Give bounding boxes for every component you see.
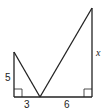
left-base-label: 3 xyxy=(24,99,30,109)
right-base-label: 6 xyxy=(64,99,70,109)
right-triangle-hypotenuse xyxy=(40,8,92,97)
right-height-label: x xyxy=(95,47,101,58)
similar-triangles-diagram: 5 3 6 x xyxy=(0,0,106,109)
left-height-label: 5 xyxy=(5,72,11,83)
left-right-angle-marker xyxy=(14,89,22,97)
left-triangle-hypotenuse xyxy=(14,52,40,97)
right-right-angle-marker xyxy=(84,89,92,97)
